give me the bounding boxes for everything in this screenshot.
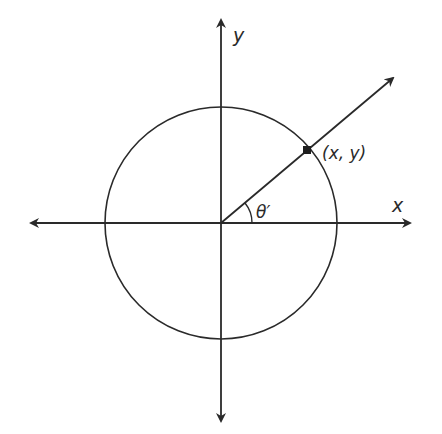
y-axis-label: y	[232, 24, 245, 46]
angle-label: θ′	[256, 202, 270, 222]
angle-arc	[245, 203, 252, 223]
unit-circle-diagram: y x (x, y) θ′	[0, 0, 442, 434]
x-axis-label: x	[391, 194, 404, 216]
point-label: (x, y)	[322, 143, 366, 163]
point-marker	[303, 146, 311, 154]
